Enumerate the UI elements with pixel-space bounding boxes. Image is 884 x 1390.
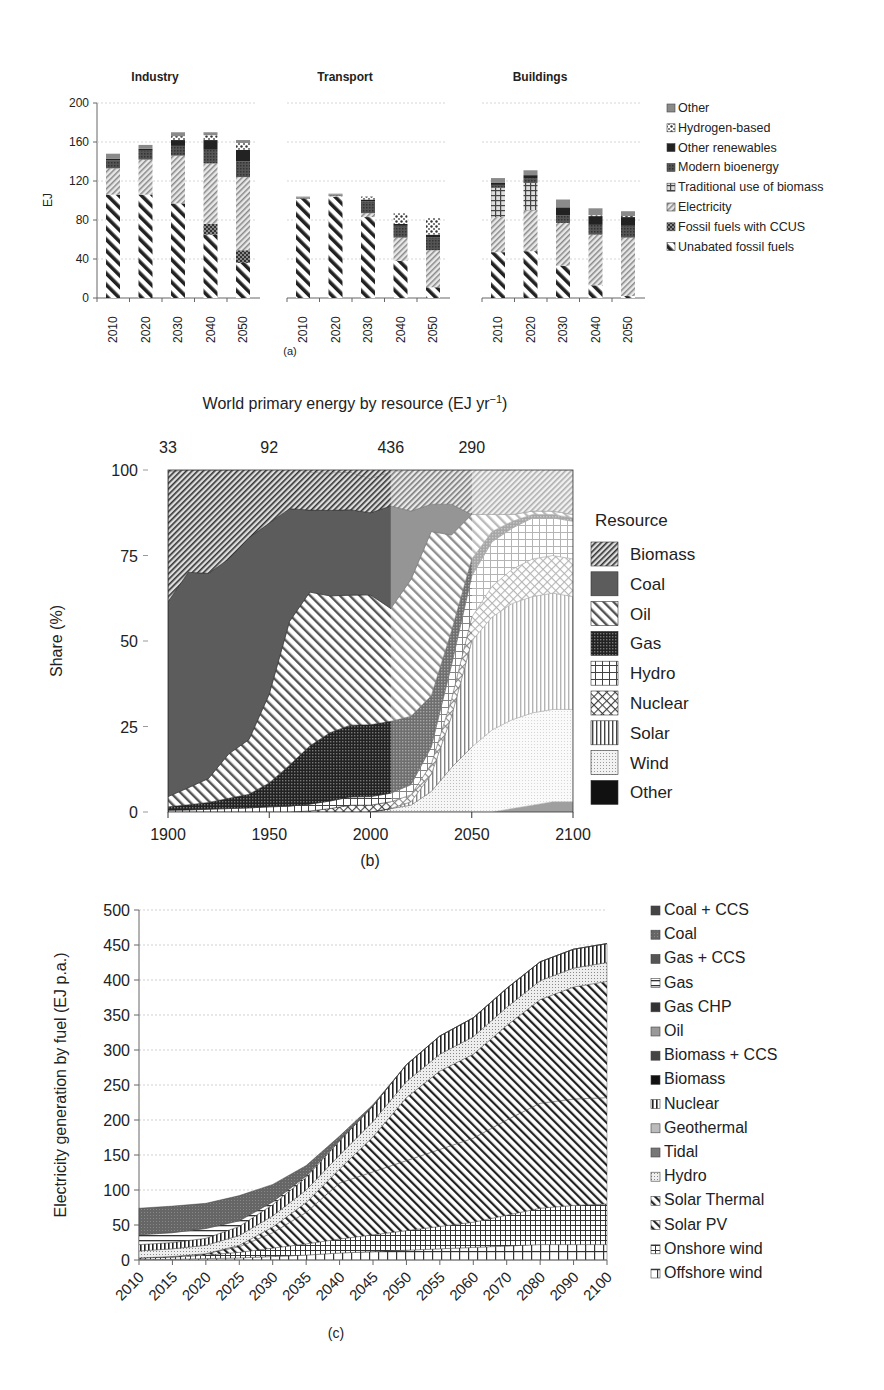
bar-segment bbox=[139, 160, 153, 195]
bar-segment bbox=[621, 216, 635, 217]
legend-label: Coal bbox=[630, 575, 665, 594]
y-tick-label: 200 bbox=[103, 1112, 130, 1129]
bar-segment bbox=[524, 175, 538, 178]
panel-title: Industry bbox=[131, 70, 179, 84]
x-tick-label: 2050 bbox=[621, 316, 635, 343]
bar-segment bbox=[491, 185, 505, 188]
legend-label: Nuclear bbox=[664, 1095, 720, 1112]
x-tick-label: 2100 bbox=[555, 826, 591, 843]
legend-label: Hydro bbox=[630, 664, 675, 683]
x-tick-label: 2030 bbox=[556, 316, 570, 343]
x-tick-label: 2030 bbox=[245, 1268, 281, 1304]
panel-title: Transport bbox=[317, 70, 372, 84]
bar-segment bbox=[236, 143, 250, 150]
projection-shading bbox=[472, 470, 573, 812]
bar-segment bbox=[106, 159, 120, 161]
bar-segment bbox=[426, 235, 440, 238]
legend-swatch bbox=[651, 979, 660, 988]
bar-segment bbox=[589, 208, 603, 215]
y-tick-label: 0 bbox=[121, 1252, 130, 1269]
legend-label: Coal bbox=[664, 925, 697, 942]
total-annotation: 290 bbox=[458, 439, 485, 456]
bar-segment bbox=[556, 215, 570, 223]
legend-label: Solar Thermal bbox=[664, 1191, 764, 1208]
legend-swatch bbox=[667, 144, 675, 152]
bar-segment bbox=[139, 149, 153, 151]
legend-label: Oil bbox=[630, 605, 651, 624]
x-tick-label: 2055 bbox=[412, 1268, 448, 1304]
legend-label: Modern bioenergy bbox=[678, 160, 780, 174]
bar-segment bbox=[589, 215, 603, 216]
x-tick-label: 2020 bbox=[139, 316, 153, 343]
legend-label: Gas CHP bbox=[664, 998, 732, 1015]
bar-segment bbox=[296, 197, 310, 198]
legend-label: Solar PV bbox=[664, 1216, 727, 1233]
bar-segment bbox=[394, 224, 408, 226]
x-tick-label: 2015 bbox=[145, 1268, 181, 1304]
bar-segment bbox=[491, 183, 505, 185]
bar-segment bbox=[361, 217, 375, 298]
bar-segment bbox=[329, 195, 343, 196]
legend-swatch bbox=[591, 542, 618, 566]
bar-segment bbox=[621, 296, 635, 298]
bar-segment bbox=[524, 251, 538, 298]
bar-segment bbox=[556, 200, 570, 208]
legend-swatch bbox=[651, 954, 660, 963]
bar-segment bbox=[171, 156, 185, 204]
legend-label: Gas + CCS bbox=[664, 949, 745, 966]
x-tick-label: 2010 bbox=[296, 316, 310, 343]
legend-label: Biomass bbox=[630, 545, 695, 564]
bar-segment bbox=[106, 168, 120, 194]
x-tick-label: 2040 bbox=[204, 316, 218, 343]
bar-segment bbox=[361, 197, 375, 200]
legend-label: Other renewables bbox=[678, 141, 777, 155]
y-tick-label: 0 bbox=[82, 291, 89, 305]
legend-label: Other bbox=[678, 101, 709, 115]
legend-swatch bbox=[667, 124, 675, 132]
legend-label: Offshore wind bbox=[664, 1264, 762, 1281]
total-annotation: 436 bbox=[377, 439, 404, 456]
bar-segment bbox=[106, 154, 120, 159]
bar-segment bbox=[171, 136, 185, 140]
y-tick-label: 100 bbox=[103, 1182, 130, 1199]
legend-label: Hydrogen-based bbox=[678, 121, 770, 135]
y-tick-label: 160 bbox=[69, 135, 89, 149]
y-tick-label: 50 bbox=[112, 1217, 130, 1234]
panel-transport: Transport20102020203020402050 bbox=[287, 70, 450, 343]
legend-label: Wind bbox=[630, 754, 669, 773]
legend-swatch bbox=[591, 691, 618, 715]
bar-segment bbox=[524, 183, 538, 210]
bar-segment bbox=[491, 188, 505, 217]
x-tick-label: 2010 bbox=[491, 316, 505, 343]
legend-swatch bbox=[667, 203, 675, 211]
x-tick-label: 2045 bbox=[346, 1268, 382, 1304]
x-tick-label: 2050 bbox=[454, 826, 490, 843]
bar-segment bbox=[106, 161, 120, 169]
legend-c: Coal + CCSCoalGas + CCSGasGas CHPOilBiom… bbox=[651, 901, 777, 1281]
x-tick-label: 2040 bbox=[394, 316, 408, 343]
bar-segment bbox=[329, 197, 343, 298]
y-tick-label: 350 bbox=[103, 1007, 130, 1024]
chart-b-primary-energy-share: World primary energy by resource (EJ yr−… bbox=[48, 393, 695, 869]
legend-label: Biomass bbox=[664, 1070, 725, 1087]
legend-label: Electricity bbox=[678, 200, 732, 214]
y-tick-label: 40 bbox=[76, 252, 90, 266]
legend-swatch bbox=[667, 163, 675, 171]
bar-segment bbox=[589, 285, 603, 298]
x-tick-label: 2030 bbox=[361, 316, 375, 343]
legend-swatch bbox=[591, 721, 618, 745]
y-tick-label: 150 bbox=[103, 1147, 130, 1164]
bar-segment bbox=[491, 178, 505, 183]
bar-segment bbox=[296, 198, 310, 199]
bar-segment bbox=[171, 203, 185, 298]
bar-segment bbox=[621, 238, 635, 296]
legend-swatch bbox=[591, 572, 618, 596]
chart-a-sector-energy: 04080120160200EJIndustry2010202020302040… bbox=[41, 70, 823, 357]
legend-swatch bbox=[651, 1003, 660, 1012]
bar-segment bbox=[394, 238, 408, 261]
legend-swatch bbox=[591, 751, 618, 775]
legend-swatch bbox=[667, 104, 675, 112]
bar-segment bbox=[394, 226, 408, 238]
panel-industry: Industry20102020203020402050 bbox=[97, 70, 260, 343]
bar-segment bbox=[621, 226, 635, 238]
